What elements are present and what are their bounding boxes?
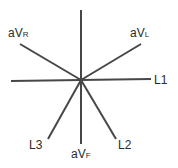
axis-l3 [48, 80, 81, 139]
center-point [79, 78, 83, 82]
label-avr-main: aV [8, 26, 23, 40]
label-avf: aVF [71, 148, 91, 162]
axis-avl [81, 44, 141, 80]
label-l1: L1 [154, 74, 167, 86]
label-avr-sub: R [23, 30, 29, 39]
label-avf-main: aV [71, 147, 86, 161]
label-avf-sub: F [86, 151, 91, 160]
label-l3-main: L3 [29, 138, 42, 152]
axes-svg [0, 0, 178, 168]
label-l2: L2 [118, 139, 131, 151]
label-avr: aVR [8, 27, 29, 41]
label-l3: L3 [29, 139, 42, 151]
label-avl-main: aV [130, 26, 145, 40]
hexaxial-diagram: aVR aVL L1 L3 aVF L2 [0, 0, 178, 168]
label-l1-main: L1 [154, 73, 167, 87]
label-avl: aVL [130, 27, 149, 41]
label-l2-main: L2 [118, 138, 131, 152]
label-avl-sub: L [145, 30, 150, 39]
axis-l2 [81, 80, 116, 139]
axis-avr [20, 44, 81, 80]
